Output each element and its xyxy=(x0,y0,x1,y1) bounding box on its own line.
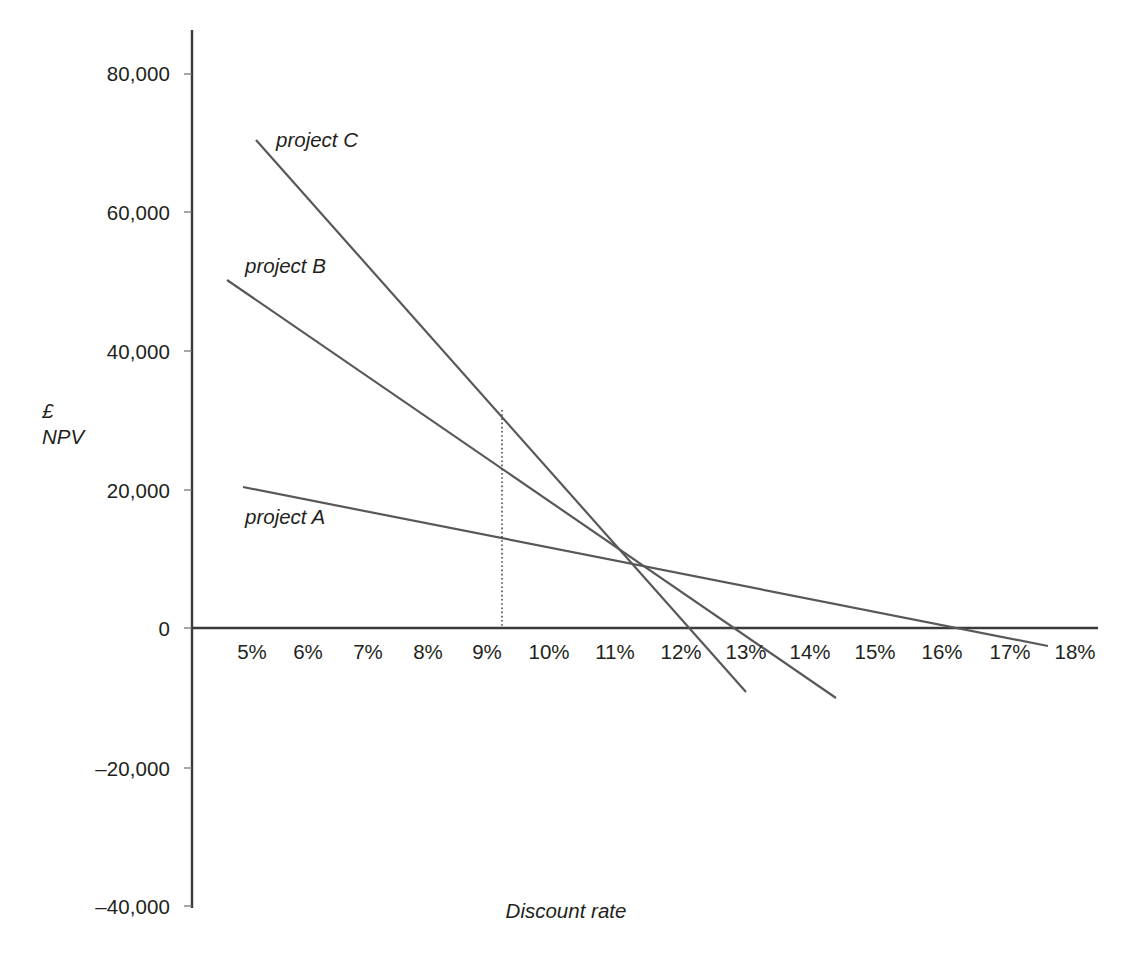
series-label-project-c: project C xyxy=(276,128,358,152)
x-axis-title: Discount rate xyxy=(0,898,1132,924)
x-tick-label-12: 12% xyxy=(646,640,716,664)
y-axis-title-metric: NPV xyxy=(42,425,84,448)
x-tick-label-15: 15% xyxy=(840,640,910,664)
x-tick-label-16: 16% xyxy=(907,640,977,664)
y-tick-label-60000: 60,000 xyxy=(8,201,170,225)
x-tick-label-13: 13% xyxy=(711,640,781,664)
series-line-project-a xyxy=(243,487,1048,646)
npv-discount-rate-chart xyxy=(0,0,1132,956)
series-label-project-b: project B xyxy=(245,254,326,278)
y-tick-label-80000: 80,000 xyxy=(8,62,170,86)
x-tick-label-17: 17% xyxy=(975,640,1045,664)
x-tick-label-8: 8% xyxy=(398,640,458,664)
y-axis-title-currency: £ xyxy=(42,399,53,422)
series-label-project-a: project A xyxy=(245,505,325,529)
x-tick-label-9: 9% xyxy=(457,640,517,664)
x-tick-label-5: 5% xyxy=(222,640,282,664)
chart-page: 80,000 60,000 40,000 20,000 0 –20,000 –4… xyxy=(0,0,1132,956)
series-line-project-b xyxy=(227,280,836,698)
y-tick-label-0: 0 xyxy=(8,617,170,641)
series-line-project-c xyxy=(256,140,746,692)
x-tick-label-18: 18% xyxy=(1040,640,1110,664)
x-tick-label-6: 6% xyxy=(278,640,338,664)
y-axis-title: £ NPV xyxy=(42,398,84,450)
x-tick-label-7: 7% xyxy=(338,640,398,664)
x-tick-label-10: 10% xyxy=(514,640,584,664)
y-tick-label-20000: 20,000 xyxy=(8,479,170,503)
y-tick-label-40000: 40,000 xyxy=(8,340,170,364)
y-tick-label-minus-20000: –20,000 xyxy=(8,757,170,781)
x-tick-label-11: 11% xyxy=(580,640,650,664)
x-tick-label-14: 14% xyxy=(775,640,845,664)
